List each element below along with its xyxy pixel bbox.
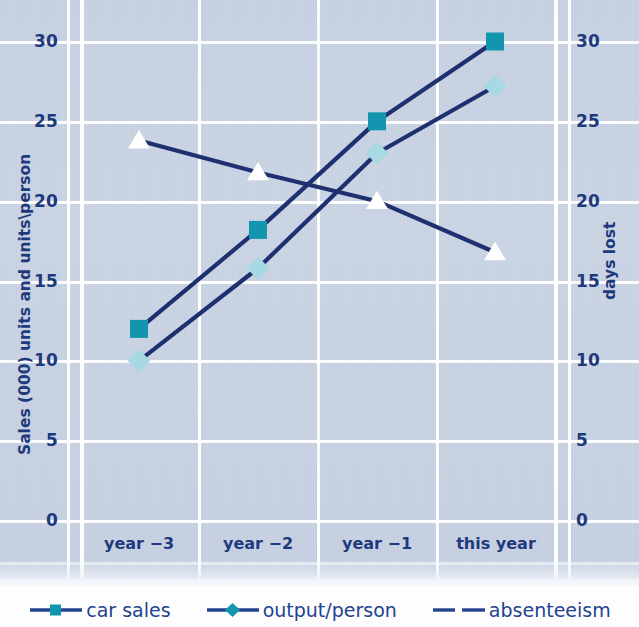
ytick-left-30: 30 [18,33,58,50]
datapoint-car-sales-3 [486,33,504,51]
legend-label-car-sales: car sales [86,599,170,621]
diamond-marker-icon [205,600,261,620]
plot-area [0,0,639,579]
ytick-right-0: 0 [576,512,616,529]
datapoint-car-sales-1 [249,221,267,239]
series-line-output-person [139,86,495,361]
y-axis-title-right: days lost [601,222,619,300]
xtick-label-year-3: year −3 [79,534,199,553]
chart-root: 30 25 20 15 10 5 0 30 25 20 15 10 5 0 Sa… [0,0,639,627]
ytick-left-25: 25 [18,113,58,130]
ytick-right-20: 20 [576,193,616,210]
series-line-absenteeism [139,140,495,252]
legend-item-output-person[interactable]: output/person [205,599,397,621]
legend-item-absenteeism[interactable]: absenteeism [431,599,611,621]
ytick-right-10: 10 [576,352,616,369]
chart-legend: car sales output/person absenteeism [0,592,639,627]
ytick-right-5: 5 [576,432,616,449]
ytick-right-30: 30 [576,33,616,50]
square-marker-icon [28,600,84,620]
datapoint-car-sales-0 [130,320,148,338]
legend-label-absenteeism: absenteeism [489,599,611,621]
legend-label-output-person: output/person [263,599,397,621]
datapoint-car-sales-2 [368,112,386,130]
ytick-left-0: 0 [18,512,58,529]
xtick-label-this-year: this year [436,534,556,553]
datapoint-absenteeism-0 [128,130,150,148]
y-axis-title-left: Sales (000) units and units\person [16,154,34,455]
dashed-line-icon [431,600,487,620]
legend-item-car-sales[interactable]: car sales [28,599,170,621]
ytick-right-25: 25 [576,113,616,130]
xtick-label-year-1: year −1 [317,534,437,553]
xtick-label-year-2: year −2 [198,534,318,553]
datapoint-output-person-3 [484,75,507,98]
